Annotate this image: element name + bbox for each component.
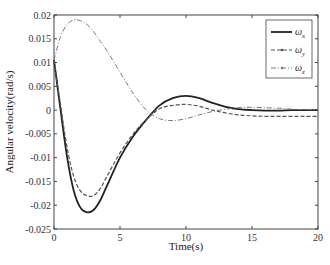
y-tick-label: 0.01 — [34, 57, 52, 68]
x-tick-label: 5 — [118, 232, 123, 243]
series-line-ωy — [54, 60, 318, 196]
y-tick-label: -0.005 — [25, 128, 51, 139]
y-tick-label: 0.005 — [29, 81, 52, 92]
y-tick-label: -0.02 — [30, 200, 51, 211]
x-tick-label: 20 — [313, 232, 323, 243]
y-tick-label: 0.02 — [34, 10, 52, 21]
y-axis-label: Angular velocity(rad/s) — [3, 70, 16, 173]
y-tick-label: -0.01 — [30, 152, 51, 163]
y-tick-label: -0.015 — [25, 176, 51, 187]
legend: ωxωyωz — [266, 20, 312, 78]
legend-marker — [281, 49, 284, 52]
y-tick-label: 0.015 — [29, 33, 52, 44]
series-line-ωx — [54, 60, 318, 212]
legend-box — [266, 20, 312, 78]
legend-marker — [281, 67, 284, 70]
x-tick-label: 0 — [52, 232, 57, 243]
angular-velocity-chart: 0.020.0150.010.0050-0.005-0.01-0.015-0.0… — [0, 0, 330, 265]
x-tick-label: 15 — [247, 232, 257, 243]
x-axis-label: Time(s) — [169, 240, 204, 253]
y-tick-label: 0 — [46, 105, 51, 116]
y-tick-label: -0.025 — [25, 224, 51, 235]
